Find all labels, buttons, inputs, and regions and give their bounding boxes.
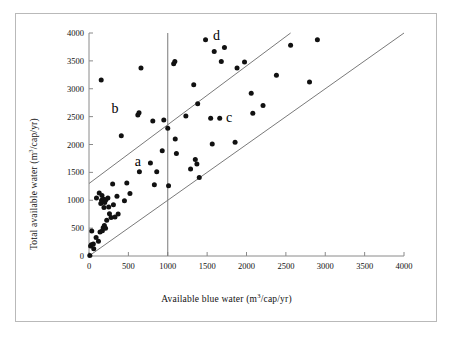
x-tick-label: 1500 [199,261,216,271]
data-point [138,66,143,71]
data-point [150,119,155,124]
data-point [148,160,153,165]
data-point [173,136,178,141]
data-point [315,37,320,42]
cluster-label-c: c [226,110,232,126]
data-point [219,59,224,64]
data-point [172,59,177,64]
y-tick-label: 1500 [56,167,84,177]
cluster-label-b: b [111,101,118,117]
x-tick-label: 500 [122,261,135,271]
data-point [203,37,208,42]
data-point [161,117,166,122]
data-point [96,239,101,244]
x-tick-label: 3000 [317,261,334,271]
data-point [274,73,279,78]
y-tick-label: 4000 [56,28,84,38]
data-point [91,242,96,247]
data-point [191,82,196,87]
data-point [91,246,96,251]
data-point [208,116,213,121]
data-point [307,80,312,85]
data-point [87,253,92,258]
data-point [235,66,240,71]
x-axis-title: Available blue water (m3/cap/yr) [0,292,453,304]
data-point [104,218,109,223]
data-point [222,45,227,50]
data-point [160,148,165,153]
data-point [242,59,247,64]
data-point [116,211,121,216]
data-point [103,226,108,231]
x-axis-title-tail: /cap/yr) [261,294,292,304]
data-point [183,114,188,119]
data-point [105,196,110,201]
y-axis-title: Total available water (m3/cap/yr) [27,118,39,250]
data-point [89,228,94,233]
data-point [99,78,104,83]
y-tick-label: 1000 [56,195,84,205]
y-axis-title-tail: /cap/yr) [29,118,39,149]
data-point [174,151,179,156]
data-point [210,141,215,146]
y-axis-title-superscript: 3 [27,149,34,152]
data-point [127,191,132,196]
y-tick-label: 2500 [56,112,84,122]
data-point [233,140,238,145]
data-point [122,198,127,203]
data-point [101,205,106,210]
data-point [154,169,159,174]
data-point [152,182,157,187]
y-tick-label: 500 [56,223,84,233]
data-point [111,202,116,207]
data-point [212,49,217,54]
y-tick-label: 3500 [56,56,84,66]
upper-diagonal [89,33,291,184]
data-point [261,103,266,108]
data-point [249,91,254,96]
data-point [165,126,170,131]
cluster-label-a: a [135,154,141,170]
data-point [195,101,200,106]
data-point [94,196,99,201]
x-tick-label: 0 [87,261,91,271]
y-axis-title-main: Total available water (m [29,153,39,250]
x-tick-label: 2000 [238,261,255,271]
x-tick-label: 4000 [396,261,413,271]
data-points-group [87,37,320,258]
data-point [288,43,293,48]
x-tick-label: 1000 [159,261,176,271]
data-point [188,167,193,172]
data-point [166,183,171,188]
data-point [124,180,129,185]
data-point [114,194,119,199]
data-point [197,175,202,180]
y-tick-label: 2000 [56,140,84,150]
y-tick-label: 0 [56,251,84,261]
data-point [217,116,222,121]
reference-lines-group [89,33,404,256]
data-point [137,110,142,115]
x-tick-label: 3500 [356,261,373,271]
data-point [110,182,115,187]
data-point [106,204,111,209]
data-point [193,157,198,162]
data-point [250,111,255,116]
data-point [194,162,199,167]
figure-container: 05001000150020002500300035004000 0500100… [0,0,453,341]
data-point [119,133,124,138]
cluster-label-d: d [213,28,220,44]
x-axis-title-main: Available blue water (m [161,294,257,304]
x-tick-label: 2500 [277,261,294,271]
y-tick-label: 3000 [56,84,84,94]
